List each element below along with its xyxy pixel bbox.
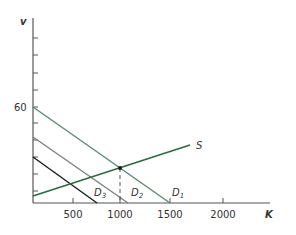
x-tick-label-2000: 2000 (210, 209, 235, 220)
x-axis-label: K (265, 209, 274, 220)
demand-curve-d3 (33, 157, 97, 203)
equilibrium-point (118, 166, 122, 170)
supply-label: S (196, 140, 203, 151)
supply-demand-chart: v K 60 500 1000 1500 2000 S D3 D2 D1 (0, 0, 296, 235)
d3-label: D3 (94, 187, 106, 200)
y-ticks (33, 38, 38, 191)
d1-label: D1 (172, 187, 184, 200)
x-tick-label-1000: 1000 (107, 209, 132, 220)
y-axis-label: v (20, 16, 27, 27)
d2-label: D2 (131, 187, 144, 200)
x-tick-label-500: 500 (63, 209, 82, 220)
x-tick-label-1500: 1500 (157, 209, 182, 220)
y-tick-label-60: 60 (14, 102, 27, 113)
